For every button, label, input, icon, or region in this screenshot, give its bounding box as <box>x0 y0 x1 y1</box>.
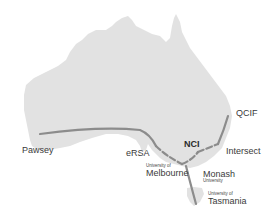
label-university-of-tasmania: University of Tasmania <box>208 192 247 206</box>
label-pawsey: Pawsey <box>22 146 54 155</box>
label-nci: NCI <box>184 140 200 149</box>
label-qcif: QCIF <box>236 109 258 118</box>
label-ersa: eRSA <box>126 149 150 158</box>
australia-mainland <box>24 14 232 168</box>
label-monash-university: Monash University <box>203 170 235 184</box>
label-university-of-melbourne: University of Melbourne <box>146 164 189 178</box>
label-monash-suffix: University <box>203 179 235 184</box>
label-tasmania: Tasmania <box>208 197 247 206</box>
label-intersect: Intersect <box>226 147 261 156</box>
label-melbourne: Melbourne <box>146 169 189 178</box>
australia-network-map <box>0 0 270 223</box>
